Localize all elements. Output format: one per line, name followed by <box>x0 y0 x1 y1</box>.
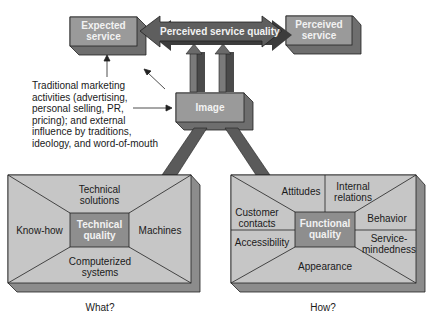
service-mindedness-label: Service- mindedness <box>362 233 416 255</box>
note-line: activities (advertising, <box>32 92 158 104</box>
perceived-service-quality-label: Perceived service quality <box>160 26 262 37</box>
label-line: solutions <box>70 195 129 206</box>
image-label: Image <box>176 102 244 113</box>
attitudes-label: Attitudes <box>276 186 326 197</box>
label-line: quality <box>70 230 129 241</box>
technical-quality-label: Technical quality <box>70 219 129 241</box>
behavior-label: Behavior <box>362 213 412 224</box>
image-to-quality-arrows <box>186 44 234 92</box>
image-legs <box>160 128 272 178</box>
label-line: quality <box>295 229 355 240</box>
internal-relations-label: Internal relations <box>328 181 378 203</box>
expected-service-line-2: service <box>70 31 137 42</box>
how-caption: How? <box>298 302 348 313</box>
influences-note: Traditional marketing activities (advert… <box>32 80 158 149</box>
label-line: Customer <box>232 207 282 218</box>
note-line: pricing); and external <box>32 115 158 127</box>
functional-quality-label: Functional quality <box>295 218 355 240</box>
perceived-service-label: Perceived service <box>286 19 352 41</box>
label-line: Functional <box>295 218 355 229</box>
label-line: Technical <box>70 184 129 195</box>
customer-contacts-label: Customer contacts <box>232 207 282 229</box>
technical-solutions-label: Technical solutions <box>70 184 129 206</box>
label-line: Internal <box>328 181 378 192</box>
perceived-service-line-2: service <box>286 30 352 41</box>
label-line: Computerized <box>60 256 140 267</box>
label-line: Service- <box>362 233 416 244</box>
expected-service-line-1: Expected <box>70 20 137 31</box>
machines-label: Machines <box>132 225 188 236</box>
what-caption: What? <box>75 302 125 313</box>
label-line: relations <box>328 192 378 203</box>
label-line: mindedness <box>362 244 416 255</box>
appearance-label: Appearance <box>290 261 360 272</box>
expected-service-label: Expected service <box>70 20 137 42</box>
note-line: ideology, and word-of-mouth <box>32 138 158 150</box>
note-line: influence by traditions, <box>32 126 158 138</box>
label-line: systems <box>60 267 140 278</box>
know-how-label: Know-how <box>12 225 67 236</box>
label-line: contacts <box>232 218 282 229</box>
computerized-systems-label: Computerized systems <box>60 256 140 278</box>
note-line: personal selling, PR, <box>32 103 158 115</box>
accessibility-label: Accessibility <box>232 237 292 248</box>
label-line: Technical <box>70 219 129 230</box>
note-line: Traditional marketing <box>32 80 158 92</box>
perceived-service-line-1: Perceived <box>286 19 352 30</box>
